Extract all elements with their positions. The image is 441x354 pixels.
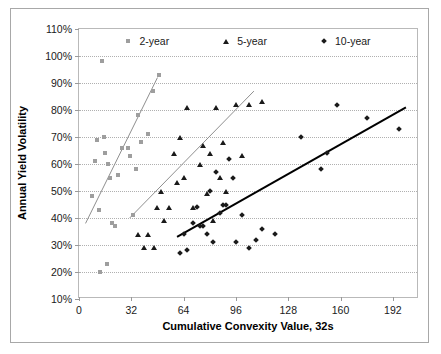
data-point-2-year	[97, 208, 101, 212]
data-point-5-year	[246, 102, 252, 107]
data-point-2-year	[131, 213, 135, 217]
y-tick-label: 100%	[45, 50, 72, 62]
x-tick-label: 0	[76, 304, 82, 316]
data-point-5-year	[166, 205, 172, 210]
y-axis-title: Annual Yield Volatility	[14, 28, 30, 298]
data-point-5-year	[181, 175, 187, 180]
trendline-5-year	[130, 91, 254, 218]
y-tick-label: 50%	[51, 185, 72, 197]
y-tick-label: 10%	[51, 293, 72, 305]
x-axis-title: Cumulative Convexity Value, 32s	[78, 320, 418, 332]
plot-area: 2-year5-year10-year 10%20%30%40%50%60%70…	[78, 28, 418, 298]
y-tick-label: 60%	[51, 158, 72, 170]
data-point-2-year	[95, 138, 99, 142]
data-point-5-year	[177, 135, 183, 140]
data-point-5-year	[151, 245, 157, 250]
y-tick-label: 30%	[51, 239, 72, 251]
data-point-5-year	[210, 218, 216, 223]
data-point-2-year	[100, 59, 104, 63]
x-tick-label: 64	[178, 304, 190, 316]
data-point-5-year	[161, 218, 167, 223]
data-point-5-year	[233, 102, 239, 107]
data-point-5-year	[174, 180, 180, 185]
data-point-5-year	[217, 175, 223, 180]
data-point-2-year	[136, 113, 140, 117]
data-point-5-year	[223, 189, 229, 194]
data-point-5-year	[239, 153, 245, 158]
data-point-2-year	[98, 270, 102, 274]
data-point-5-year	[154, 205, 160, 210]
data-point-2-year	[93, 159, 97, 163]
data-point-2-year	[106, 162, 110, 166]
data-point-5-year	[141, 245, 147, 250]
y-tick-label: 90%	[51, 77, 72, 89]
data-point-5-year	[197, 162, 203, 167]
data-point-2-year	[128, 154, 132, 158]
data-point-5-year	[213, 105, 219, 110]
data-point-2-year	[134, 167, 138, 171]
x-tick-label: 96	[230, 304, 242, 316]
data-point-5-year	[200, 143, 206, 148]
data-point-2-year	[116, 173, 120, 177]
data-point-5-year	[184, 105, 190, 110]
data-point-2-year	[139, 140, 143, 144]
data-point-2-year	[126, 146, 130, 150]
y-tick-label: 70%	[51, 131, 72, 143]
data-point-2-year	[90, 194, 94, 198]
y-tick-label: 80%	[51, 104, 72, 116]
trendline-layer	[79, 29, 419, 299]
data-point-2-year	[146, 132, 150, 136]
y-tick-label: 40%	[51, 212, 72, 224]
y-tick-label: 20%	[51, 266, 72, 278]
data-point-2-year	[102, 135, 106, 139]
chart-figure: Annual Yield Volatility Cumulative Conve…	[0, 0, 441, 354]
data-point-2-year	[108, 176, 112, 180]
x-tick-label: 32	[125, 304, 137, 316]
data-point-5-year	[158, 189, 164, 194]
data-point-5-year	[207, 151, 213, 156]
data-point-5-year	[171, 151, 177, 156]
y-tick-label: 110%	[46, 23, 72, 35]
trendline-2-year	[86, 78, 158, 224]
data-point-5-year	[259, 99, 265, 104]
data-point-2-year	[157, 73, 161, 77]
data-point-5-year	[145, 232, 151, 237]
data-point-2-year	[103, 151, 107, 155]
x-tick-label: 192	[384, 304, 402, 316]
data-point-2-year	[120, 146, 124, 150]
data-point-5-year	[220, 140, 226, 145]
data-point-2-year	[105, 262, 109, 266]
data-point-5-year	[135, 232, 141, 237]
data-point-2-year	[151, 89, 155, 93]
x-tick-label: 160	[332, 304, 350, 316]
x-tick-label: 128	[279, 304, 297, 316]
data-point-2-year	[113, 224, 117, 228]
